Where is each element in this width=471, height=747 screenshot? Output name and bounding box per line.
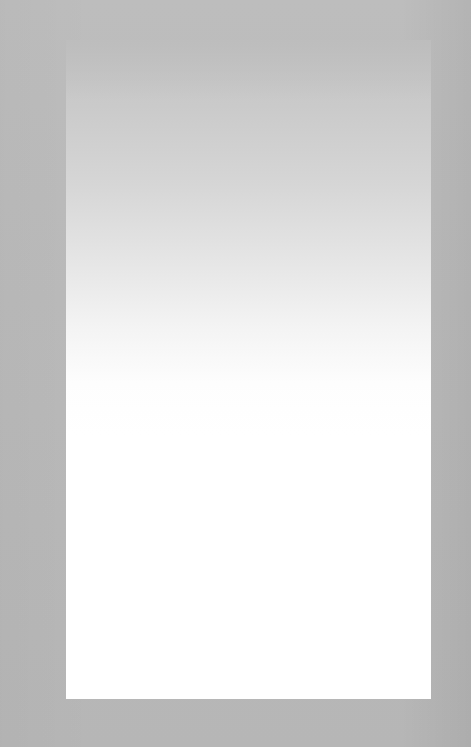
page-top-shadow	[66, 40, 431, 100]
blank-page	[66, 40, 431, 699]
